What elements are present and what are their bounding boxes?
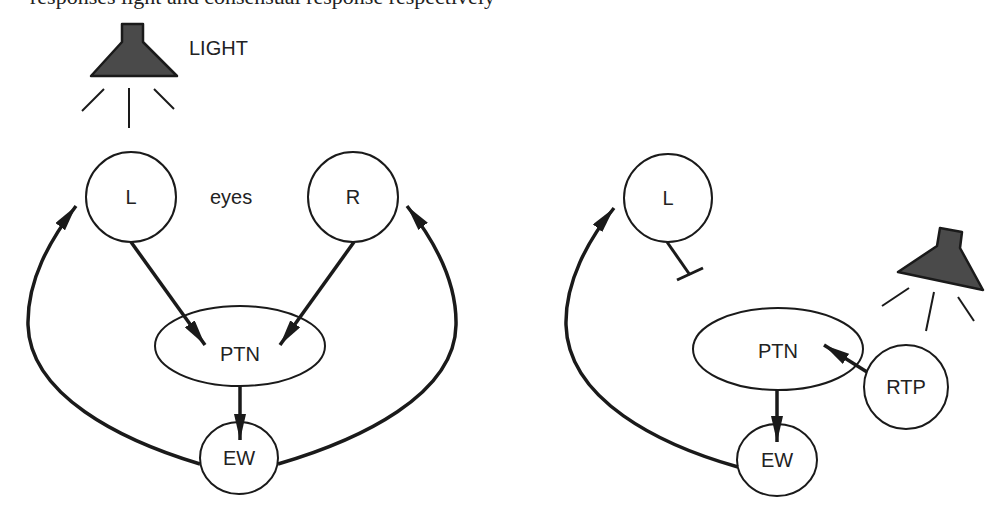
- right-eye-node: R: [308, 152, 398, 242]
- right-lamp-icon: [882, 228, 983, 331]
- right-panel-ptn-node: PTN: [693, 308, 863, 390]
- right-panel-ew-label: EW: [761, 449, 793, 471]
- ptn-label: PTN: [220, 343, 260, 365]
- top-cut-caption: responses light and consensual response …: [30, 0, 495, 9]
- light-label: LIGHT: [189, 37, 248, 59]
- right-panel-left-eye-node: L: [624, 154, 712, 242]
- right-panel-ptn-label: PTN: [758, 340, 798, 362]
- inhibition-bar-icon: [667, 242, 703, 280]
- left-panel: LIGHT L eyes R PTN EW: [28, 24, 456, 494]
- rtp-label: RTP: [886, 376, 926, 398]
- ew-label: EW: [223, 447, 255, 469]
- right-eye-label: R: [346, 186, 360, 208]
- lamp-icon: [82, 24, 177, 128]
- right-panel: L PTN RTP EW: [566, 154, 983, 496]
- rtp-node: RTP: [864, 345, 948, 429]
- caption-text: responses light and consensual response …: [30, 0, 495, 9]
- eyes-label: eyes: [210, 186, 252, 208]
- left-eye-label: L: [125, 186, 136, 208]
- right-panel-left-eye-label: L: [662, 187, 673, 209]
- pupillary-reflex-diagram: responses light and consensual response …: [0, 0, 1002, 514]
- left-eye-node: L: [86, 152, 176, 242]
